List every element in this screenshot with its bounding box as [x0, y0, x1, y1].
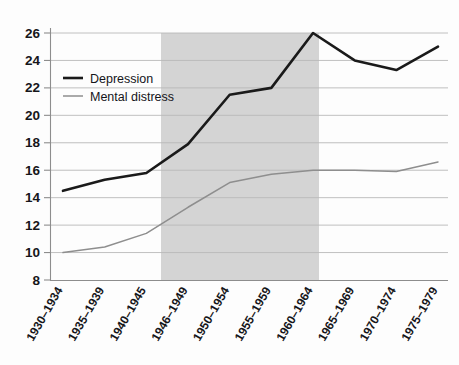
shaded-period-band [161, 33, 319, 280]
y-axis-tick-label: 18 [25, 135, 41, 150]
x-axis-tick-label: 1975–1979 [398, 284, 440, 343]
x-axis-tick-label: 1965–1969 [315, 284, 357, 343]
y-axis-ticks-group: 8101214161820222426 [25, 26, 50, 288]
legend-label-depression: Depression [90, 72, 153, 86]
y-axis-tick-label: 20 [25, 108, 40, 123]
y-axis-tick-label: 12 [25, 218, 40, 233]
y-axis-tick-label: 26 [25, 26, 41, 41]
x-axis-tick-label: 1950–1954 [190, 284, 232, 343]
x-axis-tick-label: 1930–1934 [23, 284, 65, 343]
x-axis-tick-label: 1955–1959 [232, 284, 274, 343]
y-axis-tick-label: 16 [25, 163, 41, 178]
x-axis-tick-label: 1960–1964 [273, 284, 315, 343]
chart-container: 8101214161820222426 1930–19341935–193919… [0, 0, 459, 365]
y-axis-tick-label: 10 [25, 245, 40, 260]
y-axis-tick-label: 22 [25, 80, 40, 95]
x-axis-tick-label: 1940–1945 [107, 284, 149, 343]
x-axis-tick-label: 1970–1974 [357, 284, 399, 343]
x-axis-ticks-group: 1930–19341935–19391940–19451946–19491950… [23, 284, 440, 343]
x-axis-tick-label: 1946–1949 [148, 284, 190, 343]
shaded-band-group [161, 33, 319, 280]
y-axis-tick-label: 8 [32, 273, 40, 288]
legend-label-mental-distress: Mental distress [90, 90, 174, 104]
y-axis-tick-label: 14 [25, 190, 41, 205]
line-chart: 8101214161820222426 1930–19341935–193919… [0, 0, 459, 365]
y-axis-tick-label: 24 [25, 53, 41, 68]
x-axis-tick-label: 1935–1939 [65, 284, 107, 343]
